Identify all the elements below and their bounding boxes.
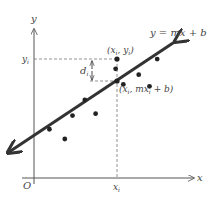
scatter-point xyxy=(70,113,75,118)
y-axis-label: y xyxy=(30,13,37,24)
x-tick-label: xi xyxy=(113,182,120,193)
scatter-point xyxy=(155,57,160,62)
scatter-point xyxy=(82,98,87,103)
origin-label: O xyxy=(23,180,31,191)
scatter-point xyxy=(113,66,118,71)
regression-diagram: y = mx + b (xi, yi) (xi, mxi + b) di y x… xyxy=(0,0,214,201)
scatter-points xyxy=(47,57,160,142)
scatter-point xyxy=(62,137,67,142)
scatter-point xyxy=(93,111,98,116)
observed-point-label: (xi, yi) xyxy=(107,45,134,56)
fitted-point-label: (xi, mxi + b) xyxy=(119,84,174,95)
residual-label: di xyxy=(80,65,88,77)
x-axis-label: x xyxy=(197,172,203,183)
observed-point xyxy=(114,56,119,61)
scatter-point xyxy=(47,127,52,132)
equation-label: y = mx + b xyxy=(149,27,207,38)
y-tick-label: yi xyxy=(21,54,29,65)
fitted-point xyxy=(114,78,119,83)
scatter-point xyxy=(136,72,141,77)
